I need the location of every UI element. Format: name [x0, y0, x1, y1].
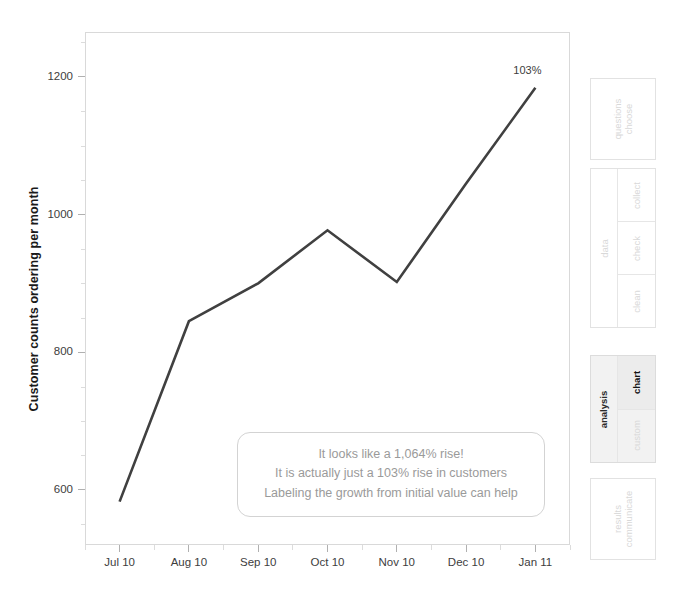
- workflow-sidebar: choosequestionsdatacollectcheckcleananal…: [588, 0, 668, 597]
- chart-page: Customer counts ordering per month 60080…: [0, 0, 680, 597]
- x-boundary-tick-mark: [154, 545, 155, 550]
- x-boundary-tick-mark: [223, 545, 224, 550]
- annotation-line-1: It looks like a 1,064% rise!: [248, 445, 534, 464]
- workflow-label-secondary: results: [612, 505, 623, 533]
- workflow-item-chart[interactable]: chart: [618, 356, 655, 410]
- x-boundary-tick-mark: [500, 545, 501, 550]
- workflow-label-primary: communicate: [623, 491, 634, 548]
- y-minor-tick: [81, 111, 85, 112]
- y-tick-mark: [78, 352, 85, 353]
- x-tick-label: Nov 10: [379, 556, 415, 568]
- x-boundary-tick-mark: [570, 545, 571, 550]
- workflow-item-clean[interactable]: clean: [618, 275, 655, 327]
- y-tick-label: 600: [54, 484, 73, 496]
- workflow-group-data[interactable]: datacollectcheckclean: [590, 168, 656, 328]
- workflow-group-label: data: [591, 169, 617, 327]
- y-minor-tick: [81, 283, 85, 284]
- y-tick-mark: [78, 489, 85, 490]
- y-minor-tick: [81, 524, 85, 525]
- workflow-group-label-text: analysis: [599, 390, 610, 428]
- workflow-item-label: clean: [631, 290, 642, 313]
- x-tick-label: Dec 10: [448, 556, 484, 568]
- x-tick-mark: [119, 545, 120, 552]
- y-axis-title: Customer counts ordering per month: [22, 0, 46, 597]
- workflow-group-items: chartcustom: [617, 356, 655, 462]
- y-minor-tick: [81, 421, 85, 422]
- workflow-group-label: analysis: [591, 356, 617, 462]
- y-minor-tick: [81, 146, 85, 147]
- x-tick-mark: [535, 545, 536, 552]
- line-chart-panel: Customer counts ordering per month 60080…: [0, 0, 580, 597]
- x-boundary-tick-mark: [431, 545, 432, 550]
- x-tick-label: Aug 10: [171, 556, 207, 568]
- y-tick-label: 1200: [47, 71, 73, 83]
- x-tick-mark: [327, 545, 328, 552]
- workflow-group-label: choosequestions: [591, 79, 655, 159]
- workflow-group-label-text: data: [599, 239, 610, 258]
- x-tick-label: Jan 11: [519, 556, 553, 568]
- y-minor-tick: [81, 455, 85, 456]
- x-tick-mark: [258, 545, 259, 552]
- x-tick-mark: [188, 545, 189, 552]
- x-boundary-tick-mark: [85, 545, 86, 550]
- x-boundary-tick-mark: [362, 545, 363, 550]
- y-minor-tick: [81, 318, 85, 319]
- workflow-item-label: collect: [631, 182, 642, 209]
- workflow-label-secondary: questions: [612, 99, 623, 140]
- end-point-value-label: 103%: [513, 64, 541, 76]
- workflow-group-label: communicateresults: [591, 479, 655, 559]
- y-minor-tick: [81, 180, 85, 181]
- workflow-group-choose-questions[interactable]: choosequestions: [590, 78, 656, 160]
- workflow-item-label: custom: [631, 420, 642, 451]
- workflow-item-label: check: [631, 236, 642, 261]
- annotation-callout: It looks like a 1,064% rise! It is actua…: [237, 432, 545, 517]
- workflow-label-primary: choose: [623, 104, 634, 135]
- y-tick-label: 800: [54, 346, 73, 358]
- workflow-item-label: chart: [631, 371, 642, 394]
- workflow-item-collect[interactable]: collect: [618, 169, 655, 222]
- x-tick-label: Sep 10: [240, 556, 276, 568]
- x-tick-mark: [466, 545, 467, 552]
- y-minor-tick: [81, 42, 85, 43]
- workflow-group-communicate-results[interactable]: communicateresults: [590, 478, 656, 560]
- x-tick-label: Oct 10: [311, 556, 345, 568]
- annotation-line-3: Labeling the growth from initial value c…: [248, 484, 534, 503]
- y-minor-tick: [81, 387, 85, 388]
- x-tick-mark: [396, 545, 397, 552]
- y-axis-title-text: Customer counts ordering per month: [27, 186, 41, 411]
- workflow-item-custom[interactable]: custom: [618, 410, 655, 463]
- x-boundary-tick-mark: [292, 545, 293, 550]
- workflow-item-check[interactable]: check: [618, 222, 655, 275]
- x-tick-label: Jul 10: [104, 556, 135, 568]
- workflow-group-analysis[interactable]: analysischartcustom: [590, 355, 656, 463]
- y-tick-mark: [78, 76, 85, 77]
- y-minor-tick: [81, 249, 85, 250]
- y-tick-label: 1000: [47, 208, 73, 220]
- workflow-group-items: collectcheckclean: [617, 169, 655, 327]
- annotation-line-2: It is actually just a 103% rise in custo…: [248, 464, 534, 483]
- y-tick-mark: [78, 214, 85, 215]
